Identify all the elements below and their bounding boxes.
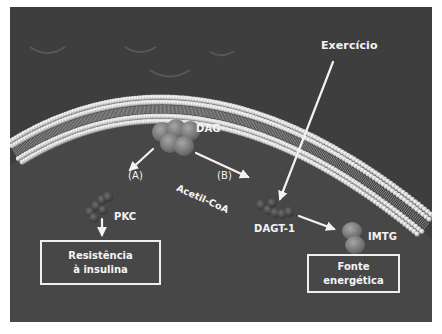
- lipid-tail: [188, 107, 189, 115]
- lipid-tail: [206, 109, 207, 117]
- lipid-tail: [379, 188, 384, 195]
- lipid-tail: [191, 107, 192, 115]
- lipid-tail: [353, 171, 357, 178]
- lipid-tail: [180, 106, 181, 114]
- lipid-tail: [333, 158, 337, 165]
- lipid-tail: [393, 199, 398, 205]
- lipid-tail: [288, 135, 291, 142]
- lipid-tail: [138, 106, 139, 114]
- lipid-tail: [376, 186, 381, 193]
- lipid-tail: [143, 106, 144, 114]
- lipid-tail: [349, 168, 353, 175]
- box-energy-source-line2: energética: [323, 274, 383, 288]
- lipid-tail: [187, 106, 188, 114]
- lipid-tail: [276, 129, 279, 136]
- lipid-tail: [359, 175, 363, 182]
- lipid-tail: [346, 166, 350, 173]
- lipid-tail: [327, 155, 331, 162]
- lipid-tail: [415, 215, 420, 221]
- lipid-tail: [277, 130, 280, 137]
- lipid-tail: [183, 106, 184, 114]
- lipid-tail: [384, 192, 389, 198]
- lipid-tail: [136, 106, 137, 114]
- lipid-tail: [208, 109, 209, 117]
- lipid-tail: [199, 108, 200, 116]
- lipid-tail: [343, 164, 347, 171]
- lipid-tail: [412, 213, 417, 219]
- lipid-tail: [413, 214, 418, 220]
- lipid-tail: [337, 161, 341, 168]
- lipid-tail: [362, 176, 366, 183]
- lipid-tail: [305, 143, 309, 150]
- lipid-tail: [207, 109, 208, 117]
- lipid-tail: [317, 149, 321, 156]
- lipid-tail: [399, 203, 404, 209]
- lipid-tail: [316, 148, 320, 155]
- lipid-tail: [373, 184, 378, 191]
- lipid-tail: [368, 180, 372, 187]
- lipid-tail: [407, 209, 412, 215]
- lipid-tail: [295, 138, 298, 145]
- lipid-tail: [381, 190, 386, 197]
- lipid-tail: [132, 107, 133, 115]
- lipid-tail: [419, 219, 424, 225]
- lipid-tail: [402, 206, 407, 212]
- lipid-tail: [284, 133, 287, 140]
- label-path-a: (A): [128, 171, 143, 181]
- lipid-tail: [356, 173, 360, 180]
- box-insulin-resistance-line1: Resistência: [68, 249, 133, 263]
- lipid-tail: [119, 108, 120, 116]
- lipid-tail: [280, 131, 283, 138]
- lipid-tail: [318, 150, 322, 157]
- lipid-tail: [323, 152, 327, 159]
- lipid-tail: [135, 106, 136, 114]
- lipid-tail: [352, 170, 356, 177]
- lipid-tail: [210, 110, 211, 118]
- box-insulin-resistance: Resistência à insulina: [40, 240, 161, 285]
- lipid-tail: [416, 217, 421, 223]
- lipid-tail: [195, 107, 196, 115]
- lipid-tail: [70, 121, 73, 129]
- lipid-tail: [72, 120, 75, 128]
- lipid-tail: [307, 144, 311, 151]
- lipid-tail: [404, 207, 409, 213]
- lipid-tail: [340, 162, 344, 169]
- lipid-tail: [367, 179, 371, 186]
- lipid-tail: [196, 108, 197, 116]
- lipid-tail: [383, 191, 388, 197]
- lipid-tail: [355, 172, 359, 179]
- lipid-tail: [126, 107, 127, 115]
- lipid-tail: [139, 106, 140, 114]
- lipid-tail: [374, 185, 379, 192]
- lipid-tail: [334, 159, 338, 166]
- lipid-tail: [286, 134, 289, 141]
- lipid-tail: [324, 153, 328, 160]
- label-exercise: Exercício: [321, 40, 378, 51]
- lipid-tail: [406, 208, 411, 214]
- lipid-head: [415, 231, 420, 236]
- lipid-tail: [331, 157, 335, 164]
- lipid-tail: [194, 107, 195, 115]
- lipid-tail: [422, 222, 427, 228]
- lipid-tail: [313, 147, 317, 154]
- lipid-tail: [310, 145, 314, 152]
- lipid-tail: [293, 137, 296, 144]
- lipid-tail: [308, 145, 312, 152]
- lipid-tail: [198, 108, 199, 116]
- lipid-head: [427, 217, 432, 222]
- lipid-tail: [120, 108, 121, 116]
- lipid-tail: [283, 132, 286, 139]
- lipid-tail: [418, 218, 423, 224]
- lipid-tail: [182, 106, 183, 114]
- box-insulin-resistance-line2: à insulina: [73, 263, 128, 277]
- lipid-tail: [401, 205, 406, 211]
- lipid-tail: [339, 162, 343, 169]
- lipid-tail: [140, 106, 141, 114]
- extracellular-texture: [30, 47, 234, 77]
- lipid-tail: [192, 107, 193, 115]
- lipid-tail: [371, 183, 376, 190]
- lipid-tail: [200, 108, 201, 116]
- label-dagt1: DAGT-1: [254, 224, 295, 234]
- lipid-tail: [124, 108, 125, 116]
- lipid-tail: [314, 148, 318, 155]
